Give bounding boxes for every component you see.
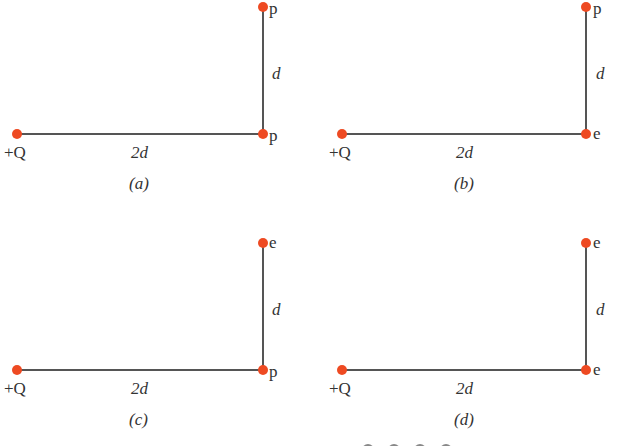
cropped-caption-remnant (362, 438, 482, 446)
charge-dot (12, 365, 22, 375)
horizontal-line (17, 369, 263, 371)
vertical-distance-label: d (596, 65, 605, 82)
horizontal-line (342, 133, 586, 135)
vertical-distance-label: d (272, 65, 281, 82)
vertical-line (262, 7, 264, 134)
corner-particle-dot (258, 365, 268, 375)
top-particle-label: p (593, 0, 602, 17)
top-particle-label: p (269, 0, 278, 17)
charge-label: +Q (4, 144, 26, 161)
top-particle-label: e (269, 234, 277, 251)
charge-label: +Q (4, 380, 26, 397)
vertical-line (585, 7, 587, 134)
corner-particle-label: p (269, 127, 278, 144)
panel-caption: (c) (129, 411, 148, 428)
top-particle-dot (581, 238, 591, 248)
vertical-distance-label: d (272, 301, 281, 318)
panel-d: +Q 2d d e e (d) (325, 236, 617, 446)
panel-caption: (a) (129, 175, 149, 192)
corner-particle-label: p (269, 363, 278, 380)
vertical-line (585, 243, 587, 370)
horizontal-distance-label: 2d (131, 144, 148, 161)
corner-particle-label: e (593, 125, 601, 142)
vertical-line (262, 243, 264, 370)
top-particle-dot (258, 2, 268, 12)
horizontal-distance-label: 2d (131, 380, 148, 397)
corner-particle-label: e (593, 361, 601, 378)
panel-caption: (d) (454, 411, 474, 428)
top-particle-label: e (593, 234, 601, 251)
corner-particle-dot (258, 129, 268, 139)
horizontal-line (342, 369, 586, 371)
charge-label: +Q (329, 380, 351, 397)
panel-b: +Q 2d d e p (b) (325, 0, 617, 210)
top-particle-dot (581, 2, 591, 12)
charge-dot (337, 129, 347, 139)
top-particle-dot (258, 238, 268, 248)
charge-dot (337, 365, 347, 375)
panel-c: +Q 2d d p e (c) (0, 236, 300, 446)
horizontal-distance-label: 2d (456, 144, 473, 161)
corner-particle-dot (581, 365, 591, 375)
charge-label: +Q (329, 144, 351, 161)
charge-dot (12, 129, 22, 139)
panel-a: +Q 2d d p p (a) (0, 0, 300, 210)
horizontal-distance-label: 2d (456, 380, 473, 397)
vertical-distance-label: d (596, 301, 605, 318)
panel-caption: (b) (454, 175, 474, 192)
corner-particle-dot (581, 129, 591, 139)
horizontal-line (17, 133, 263, 135)
